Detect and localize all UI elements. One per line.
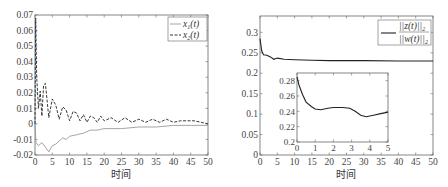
right-chart-y-tick-label: 0.05 <box>241 130 258 140</box>
left-chart-x-tick-label: 15 <box>82 157 92 167</box>
right-chart-y-tick-label: 0.15 <box>241 89 258 99</box>
right-chart-y-tick-label: 0.3 <box>246 28 258 38</box>
left-chart: 05101520253035404550-0.02-0.0100.010.020… <box>13 10 213 180</box>
right-chart-x-tick-label: 10 <box>290 157 300 167</box>
right-chart-y-tick-label: 0 <box>253 150 258 160</box>
inset-chart-y-tick-label: 0.28 <box>279 76 295 86</box>
inset-chart-y-tick-label: 0.24 <box>279 107 295 117</box>
right-chart-y-tick-label: 0.2 <box>246 68 258 78</box>
left-chart-x-tick-label: 50 <box>203 157 213 167</box>
right-chart-x-tick-label: 35 <box>376 157 386 167</box>
inset-chart-x-tick-label: 5 <box>386 143 391 153</box>
inset-chart-x-tick-label: 4 <box>368 143 373 153</box>
left-chart-y-tick-label: 0.01 <box>16 104 33 114</box>
left-chart-y-tick-label: 0.02 <box>16 88 33 98</box>
right-chart-x-tick-label: 40 <box>394 157 404 167</box>
legend-label-z-norm: ||z(t)||₂ <box>399 21 426 32</box>
left-chart-y-tick-label: 0.05 <box>16 41 33 51</box>
right-chart-x-tick-label: 50 <box>428 157 438 167</box>
left-chart-y-tick-label: -0.02 <box>13 150 33 160</box>
right-chart-y-tick-label: 0.25 <box>241 48 258 58</box>
inset-chart-y-tick-label: 0.26 <box>279 91 295 101</box>
right-chart-x-tick-label: 0 <box>258 157 263 167</box>
left-chart-x-tick-label: 25 <box>117 157 127 167</box>
right-chart: 0510152025303540455000.050.10.150.20.250… <box>241 16 438 180</box>
right-chart-x-tick-label: 45 <box>411 157 421 167</box>
left-chart-x-tick-label: 10 <box>65 157 75 167</box>
left-chart-x-tick-label: 0 <box>33 157 38 167</box>
left-chart-x-tick-label: 40 <box>169 157 179 167</box>
left-chart-x-tick-label: 20 <box>99 157 109 167</box>
legend-label-w-norm: ||w(t)||₂ <box>399 34 429 45</box>
left-chart-y-tick-label: 0.04 <box>16 57 33 67</box>
figure: 05101520253035404550-0.02-0.0100.010.020… <box>0 0 448 187</box>
left-chart-y-tick-label: 0.06 <box>16 26 33 36</box>
legend-label-x1: x1(t) <box>182 19 199 30</box>
inset-chart-x-tick-label: 3 <box>349 143 354 153</box>
right-chart-x-tick-label: 15 <box>307 157 317 167</box>
inset-chart-x-tick-label: 2 <box>331 143 336 153</box>
right-chart-y-tick-label: 0.1 <box>246 109 258 119</box>
left-chart-y-tick-label: 0.03 <box>16 72 33 82</box>
left-chart-x-tick-label: 5 <box>50 157 55 167</box>
left-chart-y-tick-label: 0.07 <box>16 10 33 20</box>
left-legend: x1(t)x2(t) <box>168 17 207 41</box>
left-chart-x-tick-label: 35 <box>151 157 161 167</box>
right-x-axis-label: 时间 <box>336 168 356 180</box>
inset-chart-x-tick-label: 1 <box>313 143 318 153</box>
inset-chart-x-tick-label: 0 <box>295 143 300 153</box>
left-chart-x-tick-label: 30 <box>134 157 144 167</box>
left-chart-x-tick-label: 45 <box>186 157 196 167</box>
left-chart-y-tick-label: -0.01 <box>13 135 33 145</box>
right-legend: ||z(t)||₂||w(t)||₂ <box>378 20 431 45</box>
left-x-axis-label: 时间 <box>111 168 131 180</box>
right-chart-x-tick-label: 20 <box>324 157 334 167</box>
right-chart-x-tick-label: 5 <box>275 157 280 167</box>
legend-label-x2: x2(t) <box>182 30 199 41</box>
right-chart-x-tick-label: 25 <box>342 157 352 167</box>
left-chart-y-tick-label: 0 <box>28 119 33 129</box>
right-chart-x-tick-label: 30 <box>359 157 369 167</box>
inset-chart-y-tick-label: 0.2 <box>284 137 295 147</box>
inset-chart-y-tick-label: 0.22 <box>279 122 295 132</box>
